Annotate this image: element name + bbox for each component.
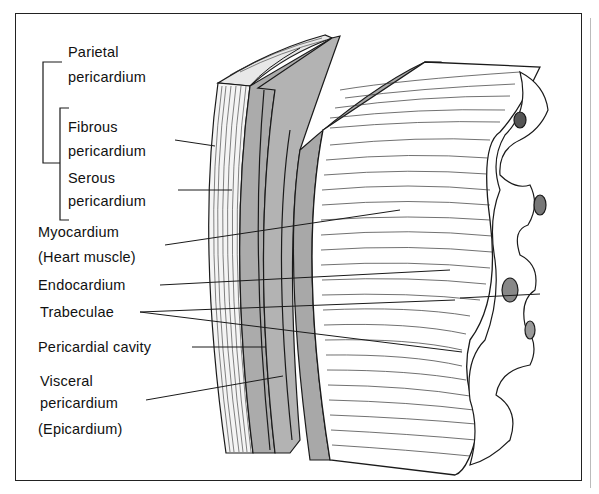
label-fibrous-pericardium: pericardium (68, 143, 146, 159)
label-parietal: Parietal (68, 44, 119, 60)
label-trabeculae: Trabeculae (40, 304, 114, 320)
label-parietal-pericardium: pericardium (68, 69, 146, 85)
label-pericardial-cavity: Pericardial cavity (38, 339, 151, 355)
label-myocardium: Myocardium (38, 224, 119, 240)
leader-fibrous (175, 140, 215, 146)
label-serous-pericardium: pericardium (68, 193, 146, 209)
label-visceral: Visceral (40, 373, 93, 389)
label-epicardium: (Epicardium) (38, 421, 123, 437)
parietal-bracket (43, 62, 62, 163)
label-serous: Serous (68, 170, 115, 186)
label-fibrous: Fibrous (68, 119, 118, 135)
label-heart-muscle: (Heart muscle) (38, 249, 136, 265)
label-endocardium: Endocardium (38, 277, 126, 293)
label-visceral-pericardium: pericardium (40, 395, 118, 411)
